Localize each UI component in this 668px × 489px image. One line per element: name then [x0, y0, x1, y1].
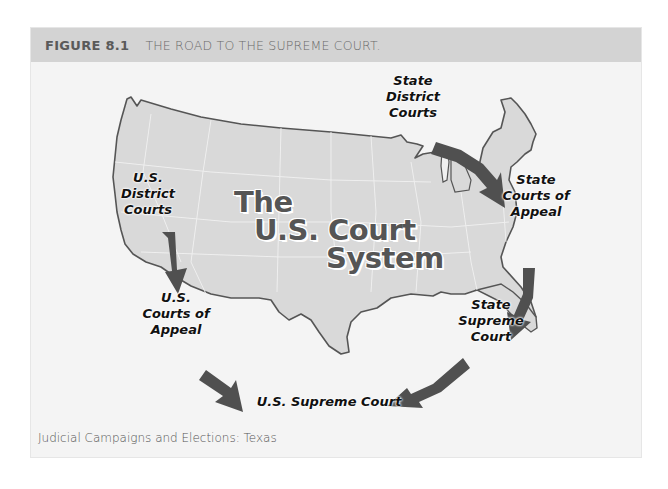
figure-header: FIGURE 8.1 THE ROAD TO THE SUPREME COURT…	[31, 28, 641, 62]
figure-caption: Judicial Campaigns and Elections: Texas	[38, 431, 277, 445]
label-state-courts-of-appeal: State Courts of Appeal	[496, 172, 576, 220]
title-line-3: System	[234, 244, 444, 272]
label-state-district-courts: State District Courts	[378, 73, 448, 121]
label-us-district-courts: U.S. District Courts	[113, 170, 183, 218]
label-state-supreme-court: State Supreme Court	[451, 297, 531, 345]
figure-number: FIGURE 8.1	[45, 38, 129, 53]
figure-container: FIGURE 8.1 THE ROAD TO THE SUPREME COURT…	[30, 27, 642, 458]
label-us-courts-of-appeal: U.S. Courts of Appeal	[136, 290, 216, 338]
label-us-supreme-court: U.S. Supreme Court	[249, 394, 409, 410]
title-line-2: U.S. Court	[234, 216, 444, 244]
figure-title: THE ROAD TO THE SUPREME COURT.	[145, 38, 380, 53]
court-system-title: The U.S. Court System	[234, 188, 444, 272]
arrow-us-appeal-to-supreme	[199, 370, 243, 412]
title-line-1: The	[234, 188, 444, 216]
